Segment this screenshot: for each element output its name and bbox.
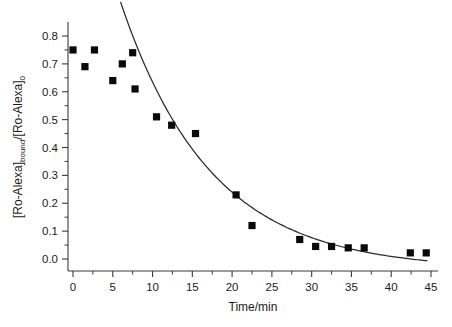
y-axis-ticks: 0.00.10.20.30.40.50.60.70.8	[42, 30, 68, 265]
data-point-marker	[81, 63, 88, 70]
x-axis-ticks: 051015202530354045	[70, 271, 438, 293]
y-tick-label: 0.8	[42, 30, 58, 42]
y-tick-label: 0.4	[42, 142, 59, 154]
y-tick-label: 0.7	[42, 58, 58, 70]
y-tick-label: 0.3	[42, 169, 58, 181]
data-points-group	[69, 46, 429, 256]
fit-curve	[121, 2, 427, 260]
x-tick-label: 25	[265, 281, 278, 293]
x-tick-label: 40	[385, 281, 398, 293]
data-point-marker	[345, 244, 352, 251]
x-tick-label: 45	[425, 281, 438, 293]
data-point-marker	[423, 249, 430, 256]
data-point-marker	[296, 236, 303, 243]
data-point-marker	[328, 243, 335, 250]
x-tick-label: 15	[186, 281, 199, 293]
data-point-marker	[361, 244, 368, 251]
data-point-marker	[312, 243, 319, 250]
x-tick-label: 0	[70, 281, 76, 293]
axes-group	[68, 22, 438, 271]
y-tick-label: 0.2	[42, 197, 58, 209]
x-axis-title: Time/min	[229, 300, 278, 314]
data-point-marker	[232, 191, 239, 198]
y-tick-label: 0.6	[42, 86, 58, 98]
data-point-marker	[131, 85, 138, 92]
x-tick-label: 35	[345, 281, 358, 293]
y-tick-label: 0.5	[42, 114, 58, 126]
y-axis-title: [Ro-Alexa]bound/[Ro-Alexa]0	[11, 75, 27, 218]
data-point-marker	[69, 46, 76, 53]
scatter-plot: 051015202530354045 0.00.10.20.30.40.50.6…	[0, 0, 452, 327]
x-tick-label: 20	[226, 281, 239, 293]
x-tick-label: 10	[146, 281, 159, 293]
data-point-marker	[407, 249, 414, 256]
data-point-marker	[119, 60, 126, 67]
data-point-marker	[153, 113, 160, 120]
data-point-marker	[109, 77, 116, 84]
data-point-marker	[129, 49, 136, 56]
x-tick-label: 5	[110, 281, 116, 293]
x-tick-label: 30	[305, 281, 318, 293]
figure-container: 051015202530354045 0.00.10.20.30.40.50.6…	[0, 0, 452, 327]
data-point-marker	[91, 46, 98, 53]
y-tick-label: 0.1	[42, 225, 58, 237]
data-point-marker	[168, 122, 175, 129]
data-point-marker	[248, 222, 255, 229]
data-point-marker	[192, 130, 199, 137]
y-tick-label: 0.0	[42, 253, 58, 265]
